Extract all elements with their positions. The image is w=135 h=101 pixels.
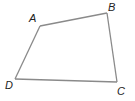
vertex-label-c: C	[117, 85, 125, 97]
edge-cd	[15, 79, 117, 82]
edge-ab	[40, 13, 107, 26]
vertex-label-d: D	[5, 79, 13, 91]
quadrilateral-diagram: A B C D	[0, 0, 135, 101]
edge-bc	[107, 13, 117, 82]
vertex-label-a: A	[28, 12, 36, 24]
edge-da	[15, 26, 40, 79]
vertex-label-b: B	[108, 1, 115, 13]
